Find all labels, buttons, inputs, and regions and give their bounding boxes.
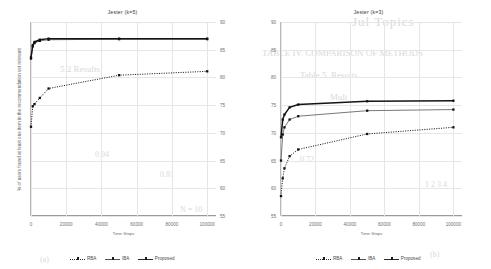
- chart-jester-k5: Jester (k=5) % of users found at least o…: [0, 0, 245, 269]
- data-point-marker: [33, 41, 35, 43]
- data-point-marker: [283, 113, 285, 115]
- data-point-marker: [297, 148, 299, 150]
- data-point-marker: [39, 39, 41, 41]
- figure-page: Jul Topics TABLE IV. COMPARISON OF METHO…: [0, 0, 491, 269]
- x-axis-tick-label: 20000: [60, 222, 73, 227]
- y-axis-tick-label: 60: [259, 186, 276, 191]
- chart-jester-k3: Jester (k=3) Time Steps 5560657075808590…: [246, 0, 491, 269]
- x-axis-tick-label: 100000: [446, 222, 461, 227]
- data-point-marker: [47, 37, 49, 39]
- data-point-marker: [280, 159, 282, 161]
- gridline-horizontal: [31, 216, 216, 217]
- data-point-marker: [297, 103, 299, 105]
- legend: RBA IBA Proposed: [0, 256, 245, 261]
- x-axis-label: Time Steps: [281, 231, 462, 236]
- plot-area: Time Steps 55606570758085900200004000060…: [280, 22, 462, 216]
- legend-item-proposed[interactable]: Proposed: [384, 256, 420, 261]
- series-line-rba: [31, 71, 207, 126]
- data-point-marker: [206, 70, 208, 72]
- y-axis-tick-label: 75: [220, 103, 240, 108]
- x-axis-tick-label: 40000: [95, 222, 108, 227]
- y-axis-tick-label: 90: [220, 20, 240, 25]
- y-axis-tick-label: 85: [259, 47, 276, 52]
- x-axis-tick-label: 60000: [130, 222, 143, 227]
- x-axis-tick-label: 80000: [166, 222, 179, 227]
- series-line-proposed: [281, 101, 453, 138]
- legend-item-iba[interactable]: IBA: [105, 256, 129, 261]
- y-axis-tick-label: 75: [259, 103, 276, 108]
- series-line-rba: [281, 127, 453, 196]
- data-point-marker: [282, 118, 284, 120]
- legend-item-rba[interactable]: RBA: [70, 256, 96, 261]
- data-point-marker: [366, 133, 368, 135]
- y-axis-tick-label: 65: [259, 158, 276, 163]
- data-point-marker: [297, 115, 299, 117]
- legend-item-proposed[interactable]: Proposed: [138, 256, 174, 261]
- data-point-marker: [33, 103, 35, 105]
- legend-label: Proposed: [155, 256, 175, 261]
- series-line-iba: [31, 39, 207, 58]
- data-point-marker: [47, 87, 49, 89]
- legend-marker-icon: [105, 256, 120, 261]
- legend-label: IBA: [122, 256, 129, 261]
- y-axis-tick-label: 55: [259, 214, 276, 219]
- y-axis-tick-label: 80: [259, 75, 276, 80]
- data-point-marker: [39, 97, 41, 99]
- x-axis-label: Time Steps: [31, 231, 216, 236]
- legend-marker-icon: [384, 256, 399, 261]
- series-layer: [281, 22, 462, 216]
- x-axis-tick-label: 0: [280, 222, 283, 227]
- data-point-marker: [288, 155, 290, 157]
- data-point-marker: [32, 44, 34, 46]
- data-point-marker: [118, 37, 120, 39]
- data-point-marker: [452, 108, 454, 110]
- data-point-marker: [288, 118, 290, 120]
- y-axis-tick-label: 55: [220, 214, 240, 219]
- plot-area: Time Steps 55606570758085900200004000060…: [30, 22, 216, 216]
- y-axis-tick-label: 70: [220, 130, 240, 135]
- data-point-marker: [206, 37, 208, 39]
- legend-marker-icon: [351, 256, 366, 261]
- legend-marker-icon: [70, 256, 85, 261]
- y-axis-tick-label: 90: [259, 20, 276, 25]
- y-axis-label-text: % of users found at least one item in th…: [17, 48, 22, 191]
- legend-marker-icon: [316, 256, 331, 261]
- legend-label: RBA: [333, 256, 342, 261]
- x-axis-tick-label: 100000: [200, 222, 215, 227]
- data-point-marker: [118, 74, 120, 76]
- series-layer: [31, 22, 216, 216]
- data-point-marker: [366, 110, 368, 112]
- y-axis-tick-label: 85: [220, 47, 240, 52]
- legend-label: Proposed: [401, 256, 421, 261]
- series-line-proposed: [31, 39, 207, 58]
- data-point-marker: [30, 126, 32, 128]
- x-axis-tick-label: 60000: [378, 222, 391, 227]
- data-point-marker: [283, 167, 285, 169]
- data-point-marker: [283, 126, 285, 128]
- x-axis-tick-label: 20000: [309, 222, 322, 227]
- chart-title: Jester (k=3): [246, 9, 491, 15]
- y-axis-tick-label: 65: [220, 158, 240, 163]
- legend-item-iba[interactable]: IBA: [351, 256, 375, 261]
- x-axis-tick-label: 40000: [344, 222, 357, 227]
- y-axis-tick-label: 70: [259, 130, 276, 135]
- data-point-marker: [366, 100, 368, 102]
- chart-title: Jester (k=5): [0, 9, 245, 15]
- data-point-marker: [280, 195, 282, 197]
- x-axis-tick-label: 80000: [413, 222, 426, 227]
- legend-item-rba[interactable]: RBA: [316, 256, 342, 261]
- data-point-marker: [288, 106, 290, 108]
- x-axis-tick-label: 0: [30, 222, 33, 227]
- legend-label: RBA: [87, 256, 96, 261]
- gridline-horizontal: [281, 216, 462, 217]
- legend: RBA IBA Proposed: [246, 256, 491, 261]
- data-point-marker: [280, 136, 282, 138]
- data-point-marker: [32, 105, 34, 107]
- data-point-marker: [30, 56, 32, 58]
- y-axis-label: % of users found at least one item in th…: [14, 22, 24, 216]
- legend-marker-icon: [138, 256, 153, 261]
- y-axis-tick-label: 80: [220, 75, 240, 80]
- data-point-marker: [452, 126, 454, 128]
- y-axis-tick-label: 60: [220, 186, 240, 191]
- legend-label: IBA: [368, 256, 375, 261]
